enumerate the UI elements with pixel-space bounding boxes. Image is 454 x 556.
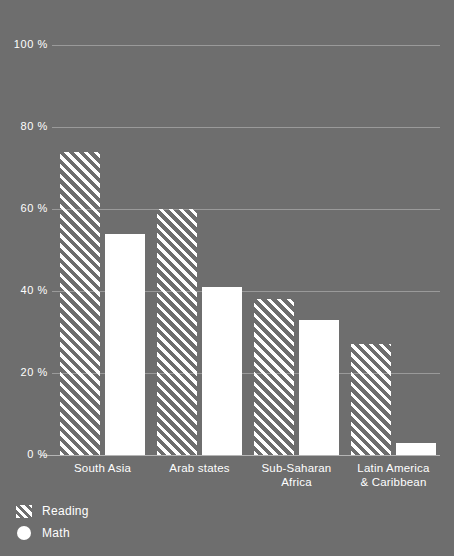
xaxis-label-arab-states-line-1: Arab states: [147, 461, 252, 475]
xaxis-label-latin-america-caribbean-line-1: Latin America: [341, 461, 446, 475]
plot-area: 100 % 80 % 60 % 40 % 20 % 0 %: [0, 0, 454, 470]
xaxis-label-south-asia: South Asia: [50, 461, 155, 475]
hatched-square-swatch-icon: [16, 505, 32, 518]
bar-math-arab-states: [202, 287, 242, 455]
bar-reading-latin-america-caribbean: [351, 344, 391, 455]
legend-label-reading: Reading: [42, 504, 89, 518]
xaxis-label-sub-saharan-africa: Sub-Saharan Africa: [244, 461, 349, 489]
xaxis-label-arab-states: Arab states: [147, 461, 252, 475]
legend-item-math: Math: [16, 522, 216, 544]
xaxis-label-latin-america-caribbean-line-2: & Caribbean: [341, 475, 446, 489]
legend-label-math: Math: [42, 526, 70, 540]
legend: Reading Math: [16, 500, 216, 544]
bar-math-south-asia: [105, 234, 145, 455]
xaxis-label-south-asia-line-1: South Asia: [50, 461, 155, 475]
xaxis-label-sub-saharan-africa-line-1: Sub-Saharan: [244, 461, 349, 475]
bar-math-latin-america-caribbean: [396, 443, 436, 455]
bar-reading-south-asia: [60, 152, 100, 455]
bar-reading-sub-saharan-africa: [254, 299, 294, 455]
gridline-0-baseline: [40, 455, 440, 456]
xaxis-label-sub-saharan-africa-line-2: Africa: [244, 475, 349, 489]
xaxis-label-latin-america-caribbean: Latin America & Caribbean: [341, 461, 446, 489]
bar-reading-arab-states: [157, 209, 197, 455]
bar-chart: 100 % 80 % 60 % 40 % 20 % 0 %: [0, 0, 454, 556]
legend-item-reading: Reading: [16, 500, 216, 522]
filled-circle-swatch-icon: [17, 526, 31, 540]
bar-math-sub-saharan-africa: [299, 320, 339, 455]
bars-layer: [0, 0, 454, 455]
